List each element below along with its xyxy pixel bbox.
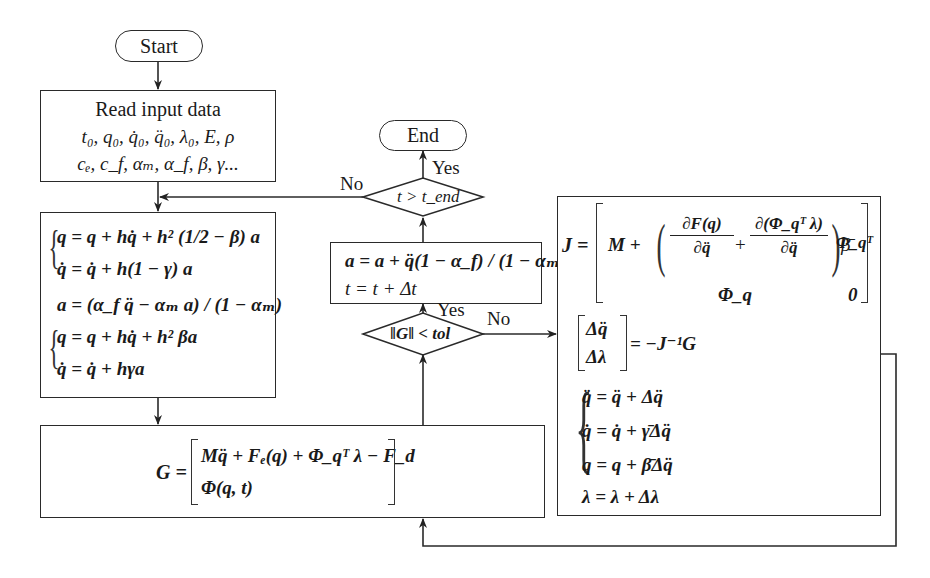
frac2-bar: [750, 235, 828, 236]
frac2-denominator: ∂q̈: [750, 239, 828, 256]
correction-3: q = q + β̄Δq̈: [582, 455, 673, 474]
residual-row-1: Mq̈ + Fₑ(q) + Φ_qᵀ λ − F_d: [201, 446, 415, 465]
newton-correction-box: J = M + ( ∂F(q) ∂q̈ + ∂(Φ_qᵀ λ) ∂q̈ ) β̄…: [557, 196, 881, 516]
start-label: Start: [140, 35, 178, 58]
paren-left: (: [656, 211, 665, 280]
correction-4: λ = λ + Δλ: [582, 487, 659, 506]
jacobian-m-term: M +: [608, 235, 640, 254]
time-yes-label: Yes: [432, 158, 460, 177]
end-terminator: End: [379, 120, 467, 151]
jacobian-phi-qT-visible: Φ_qᵀ: [836, 234, 873, 251]
predictor-eq-3: a = (α_f q̈ − αₘ a) / (1 − αₘ): [57, 295, 282, 314]
update-eq-1: a = a + q̈(1 − α_f) / (1 − αₘ): [345, 251, 566, 270]
solve-top: Δq̈: [586, 319, 607, 338]
jacobian-lhs: J =: [562, 235, 588, 255]
predictor-box: { q = q + hq̇ + h² (1/2 − β) a q̇ = q̇ +…: [40, 212, 276, 398]
conv-no-label: No: [487, 309, 510, 328]
jacobian-bracket-right: [861, 203, 868, 303]
input-data-box: Read input data t₀, q₀, q̇₀, q̈₀, λ₀, E,…: [40, 90, 276, 182]
solve-bracket-left: [578, 315, 585, 371]
predictor-eq-1: q = q + hq̇ + h² (1/2 − β) a: [57, 227, 260, 246]
solve-bottom: Δλ: [586, 347, 606, 366]
time-no-label: No: [340, 174, 363, 193]
jacobian-plus: +: [735, 235, 746, 254]
frac1-denominator: ∂q̈: [670, 239, 734, 256]
predictor-eq-2: q̇ = q̇ + h(1 − γ) a: [57, 259, 193, 278]
update-eq-2: t = t + Δt: [345, 279, 417, 298]
correction-1: q̈ = q̈ + Δq̈: [582, 387, 663, 406]
correction-2: q̇ = q̇ + γ̄Δq̈: [582, 421, 671, 440]
input-title: Read input data: [41, 99, 275, 119]
jacobian-r2c1: Φ_q: [718, 285, 752, 304]
frac1-numerator: ∂F(q): [670, 215, 734, 232]
state-update-box: a = a + q̈(1 − α_f) / (1 − αₘ) t = t + Δ…: [330, 242, 542, 304]
end-label: End: [407, 124, 439, 147]
residual-bracket-right: [388, 439, 395, 505]
jacobian-fraction-2: ∂(Φ_qᵀ λ) ∂q̈: [750, 215, 828, 256]
residual-row-2: Φ(q, t): [201, 478, 253, 497]
input-params-1: t₀, q₀, q̇₀, q̈₀, λ₀, E, ρ: [41, 127, 275, 146]
residual-box: G = Mq̈ + Fₑ(q) + Φ_qᵀ λ − F_d Φ(q, t): [40, 425, 545, 518]
conv-yes-label: Yes: [437, 300, 465, 319]
time-condition: t > t_end: [397, 187, 459, 207]
predictor-eq-5: q̇ = q̇ + hγa: [57, 359, 145, 378]
jacobian-fraction-1: ∂F(q) ∂q̈: [670, 215, 734, 256]
predictor-eq-4: q = q + hq̇ + h² βa: [57, 327, 197, 346]
jacobian-bracket-left: [596, 203, 603, 303]
residual-lhs: G =: [156, 462, 187, 482]
solve-rhs: = −J⁻¹G: [630, 334, 696, 353]
convergence-condition: ‖G‖ < tol: [390, 324, 450, 344]
residual-bracket-left: [191, 439, 198, 505]
solve-bracket-right: [620, 315, 627, 371]
start-terminator: Start: [115, 30, 203, 62]
input-params-2: cₑ, c_f, αₘ, α_f, β, γ...: [41, 154, 275, 173]
frac1-bar: [670, 235, 734, 236]
frac2-numerator: ∂(Φ_qᵀ λ): [750, 215, 828, 232]
jacobian-r2c2: 0: [848, 285, 858, 304]
